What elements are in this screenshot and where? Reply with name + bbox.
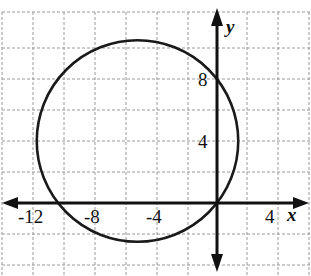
x-tick-label-minus-8: -8	[84, 207, 100, 226]
y-tick-label-4: 4	[198, 132, 208, 151]
x-tick-label-4: 4	[265, 207, 275, 226]
x-tick-label-minus-4: -4	[146, 207, 162, 226]
coordinate-plane	[0, 0, 311, 276]
x-axis-label: x	[287, 205, 297, 224]
x-tick-label-minus-12: -12	[18, 207, 43, 226]
y-tick-label-8: 8	[198, 70, 208, 89]
graph-figure: -12 -8 -4 4 4 8 x y	[0, 0, 311, 276]
y-axis-label: y	[226, 17, 234, 36]
